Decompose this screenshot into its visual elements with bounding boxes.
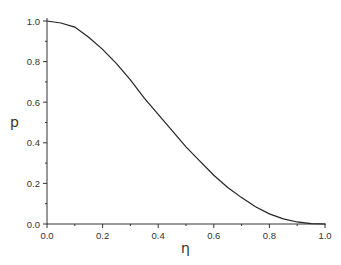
y-tick-label: 0.8 bbox=[27, 56, 40, 67]
x-tick-label: 0.8 bbox=[263, 230, 276, 241]
plot-area: 0.00.20.40.60.81.0 0.00.20.40.60.81.0 bbox=[27, 16, 332, 242]
y-tick-label: 0.6 bbox=[27, 97, 40, 108]
x-axis-ticks: 0.00.20.40.60.81.0 bbox=[40, 224, 331, 241]
data-line bbox=[47, 21, 325, 224]
y-tick-label: 1.0 bbox=[27, 16, 40, 27]
x-tick-label: 0.6 bbox=[207, 230, 220, 241]
x-tick-label: 1.0 bbox=[318, 230, 331, 241]
x-axis-label: η bbox=[181, 240, 190, 256]
y-tick-label: 0.4 bbox=[27, 137, 40, 148]
chart: 0.00.20.40.60.81.0 0.00.20.40.60.81.0 p … bbox=[0, 0, 341, 265]
y-axis-ticks: 0.00.20.40.60.81.0 bbox=[27, 16, 47, 230]
x-tick-label: 0.4 bbox=[152, 230, 165, 241]
x-tick-label: 0.2 bbox=[96, 230, 109, 241]
x-tick-label: 0.0 bbox=[40, 230, 53, 241]
y-tick-label: 0.2 bbox=[27, 178, 40, 189]
y-tick-label: 0.0 bbox=[27, 219, 40, 230]
y-axis-label: p bbox=[10, 114, 19, 130]
